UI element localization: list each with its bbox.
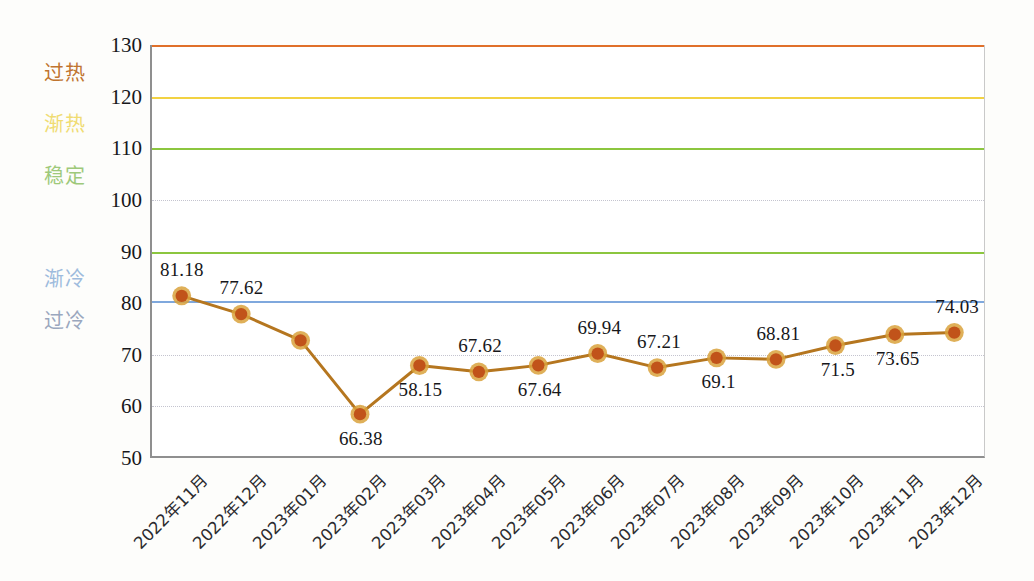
band-label-过热: 过热 bbox=[44, 56, 86, 85]
data-point-marker[interactable] bbox=[651, 361, 663, 373]
y-axis-tick-120: 120 bbox=[96, 84, 142, 109]
y-axis-tick-70: 70 bbox=[96, 342, 142, 367]
data-label-74.03: 74.03 bbox=[935, 296, 979, 318]
data-label-71.5: 71.5 bbox=[821, 359, 855, 381]
data-point-marker[interactable] bbox=[532, 359, 544, 371]
data-label-68.81: 68.81 bbox=[756, 323, 800, 345]
data-label-81.18: 81.18 bbox=[160, 259, 204, 281]
data-point-marker[interactable] bbox=[235, 308, 247, 320]
data-label-69.1: 69.1 bbox=[702, 371, 736, 393]
y-axis-tick-90: 90 bbox=[96, 239, 142, 264]
y-axis-tick-130: 130 bbox=[96, 33, 142, 58]
data-label-73.65: 73.65 bbox=[876, 348, 920, 370]
data-point-marker[interactable] bbox=[710, 352, 722, 364]
data-point-marker[interactable] bbox=[889, 328, 901, 340]
data-label-69.94: 69.94 bbox=[577, 317, 621, 339]
data-label-77.62: 77.62 bbox=[220, 277, 264, 299]
band-label-稳定: 稳定 bbox=[44, 160, 86, 189]
data-point-marker[interactable] bbox=[592, 347, 604, 359]
y-axis-tick-50: 50 bbox=[96, 446, 142, 471]
data-point-marker[interactable] bbox=[473, 366, 485, 378]
data-point-marker[interactable] bbox=[354, 408, 366, 420]
data-point-marker[interactable] bbox=[829, 339, 841, 351]
data-point-marker[interactable] bbox=[413, 359, 425, 371]
data-label-67.64: 67.64 bbox=[518, 379, 562, 401]
data-point-marker[interactable] bbox=[176, 290, 188, 302]
data-point-marker[interactable] bbox=[948, 326, 960, 338]
y-axis-tick-80: 80 bbox=[96, 291, 142, 316]
data-label-67.62: 67.62 bbox=[458, 335, 502, 357]
series-path bbox=[182, 296, 955, 414]
y-axis-tick-100: 100 bbox=[96, 187, 142, 212]
data-label-67.21: 67.21 bbox=[637, 331, 681, 353]
band-label-渐热: 渐热 bbox=[44, 108, 86, 137]
plot-area: 81.1877.6266.3858.1567.6267.6469.9467.21… bbox=[150, 45, 985, 458]
y-axis-tick-110: 110 bbox=[96, 136, 142, 161]
data-point-marker[interactable] bbox=[294, 334, 306, 346]
band-label-渐冷: 渐冷 bbox=[44, 263, 86, 292]
data-label-66.38: 66.38 bbox=[339, 428, 383, 450]
data-point-marker[interactable] bbox=[770, 353, 782, 365]
data-label-58.15: 58.15 bbox=[399, 379, 443, 401]
band-label-过冷: 过冷 bbox=[44, 304, 86, 333]
y-axis-tick-60: 60 bbox=[96, 394, 142, 419]
series-line bbox=[152, 45, 984, 456]
chart-root: 5060708090100110120130 过热渐热稳定渐冷过冷 81.187… bbox=[0, 0, 1034, 581]
